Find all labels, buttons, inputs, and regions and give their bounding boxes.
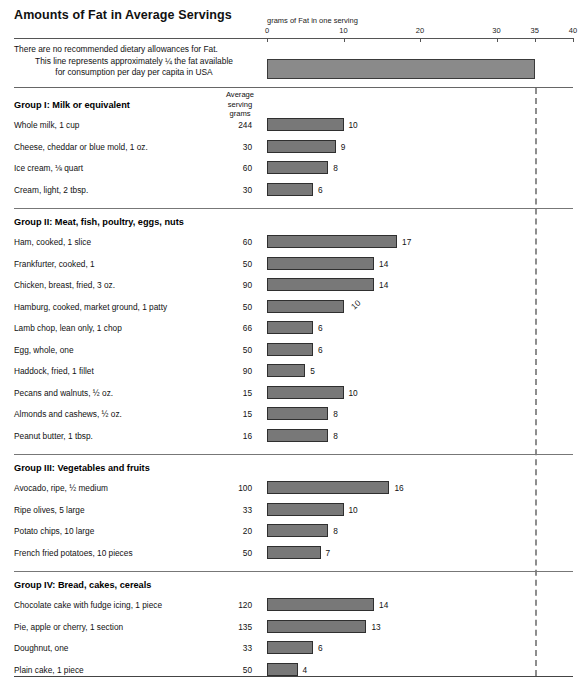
row-value-label: 8 (333, 431, 338, 441)
row-bar (267, 620, 366, 633)
note-separator-rule (14, 87, 573, 88)
row-serving-grams: 15 (190, 409, 252, 419)
row-bar (267, 118, 344, 131)
row-value-label: 13 (371, 622, 380, 632)
row-label: Lamb chop, lean only, 1 chop (14, 323, 122, 333)
row-bar (267, 140, 336, 153)
row-bar (267, 161, 328, 174)
row-bar (267, 235, 397, 248)
serving-grams-column-header: Average serving grams (200, 90, 280, 119)
axis-tick-label: 35 (531, 26, 539, 35)
group-title: Group II: Meat, fish, poultry, eggs, nut… (14, 217, 184, 227)
row-serving-grams: 90 (190, 366, 252, 376)
row-serving-grams: 30 (190, 185, 252, 195)
group-title: Group IV: Bread, cakes, cereals (14, 580, 151, 590)
row-serving-grams: 33 (190, 643, 252, 653)
row-bar (267, 364, 305, 377)
axis-tick-label: 30 (492, 26, 500, 35)
row-label: Cream, light, 2 tbsp. (14, 185, 88, 195)
intro-note-line-2: This line represents approximately ¼ the… (14, 56, 254, 68)
row-label: Pie, apple or cherry, 1 section (14, 622, 123, 632)
reference-dashed-line (535, 88, 537, 676)
row-value-label: 10 (349, 120, 358, 130)
axis-tick-label: 0 (265, 26, 269, 35)
row-label: Whole milk, 1 cup (14, 120, 79, 130)
row-bar (267, 503, 344, 516)
group-separator-rule (14, 571, 573, 572)
row-label: Avocado, ripe, ½ medium (14, 483, 108, 493)
row-value-label: 6 (318, 323, 323, 333)
row-bar (267, 407, 328, 420)
row-value-label: 6 (318, 643, 323, 653)
row-value-label: 5 (310, 366, 315, 376)
row-serving-grams: 50 (190, 548, 252, 558)
row-label: Frankfurter, cooked, 1 (14, 259, 95, 269)
row-value-label: 9 (341, 142, 346, 152)
axis-baseline (14, 38, 573, 39)
row-serving-grams: 50 (190, 665, 252, 675)
row-label: Ham, cooked, 1 slice (14, 237, 91, 247)
row-serving-grams: 20 (190, 526, 252, 536)
row-bar (267, 429, 328, 442)
row-bar (267, 546, 321, 559)
bottom-rule (14, 676, 573, 677)
row-value-label: 7 (326, 548, 331, 558)
axis-tick-mark (267, 38, 268, 42)
row-serving-grams: 60 (190, 163, 252, 173)
row-label: Chocolate cake with fudge icing, 1 piece (14, 600, 162, 610)
row-value-label: 4 (303, 665, 308, 675)
row-value-label: 8 (333, 526, 338, 536)
row-value-label: 6 (318, 345, 323, 355)
row-label: Potato chips, 10 large (14, 526, 94, 536)
row-bar (267, 663, 298, 676)
axis-tick-label: 20 (416, 26, 424, 35)
row-label: Hamburg, cooked, market ground, 1 patty (14, 302, 167, 312)
row-bar (267, 257, 374, 270)
row-serving-grams: 60 (190, 237, 252, 247)
row-label: Plain cake, 1 piece (14, 665, 84, 675)
row-serving-grams: 16 (190, 431, 252, 441)
row-value-label: 10 (349, 388, 358, 398)
row-serving-grams: 66 (190, 323, 252, 333)
group-separator-rule (14, 454, 573, 455)
row-label: Cheese, cheddar or blue mold, 1 oz. (14, 142, 148, 152)
row-serving-grams: 90 (190, 280, 252, 290)
axis-caption: grams of Fat in one serving (267, 16, 358, 25)
column-header-line-2: serving (200, 100, 280, 110)
group-separator-rule (14, 208, 573, 209)
axis-tick-mark (420, 38, 421, 42)
row-value-label: 14 (379, 259, 388, 269)
row-serving-grams: 50 (190, 259, 252, 269)
axis-tick-mark (497, 38, 498, 42)
row-serving-grams: 135 (190, 622, 252, 632)
row-label: Ripe olives, 5 large (14, 505, 85, 515)
row-bar (267, 321, 313, 334)
row-bar (267, 343, 313, 356)
axis-tick-mark (344, 38, 345, 42)
row-serving-grams: 50 (190, 345, 252, 355)
fat-chart-sheet: Amounts of Fat in Average Servings grams… (0, 0, 581, 685)
row-value-label: 10 (349, 505, 358, 515)
group-title: Group I: Milk or equivalent (14, 100, 130, 110)
row-value-label: 16 (394, 483, 403, 493)
row-serving-grams: 120 (190, 600, 252, 610)
row-bar (267, 481, 389, 494)
intro-note: There are no recommended dietary allowan… (14, 44, 254, 79)
row-value-label: 17 (402, 237, 411, 247)
row-label: Pecans and walnuts, ½ oz. (14, 388, 113, 398)
row-label: Almonds and cashews, ½ oz. (14, 409, 122, 419)
group-title: Group III: Vegetables and fruits (14, 463, 150, 473)
axis-tick-label: 10 (339, 26, 347, 35)
row-bar (267, 183, 313, 196)
row-serving-grams: 30 (190, 142, 252, 152)
intro-note-line-1: There are no recommended dietary allowan… (14, 44, 254, 56)
row-value-label: 14 (379, 280, 388, 290)
row-bar (267, 641, 313, 654)
row-value-label: 8 (333, 163, 338, 173)
axis-tick-label: 40 (569, 26, 577, 35)
row-bar (267, 524, 328, 537)
row-bar (267, 386, 344, 399)
axis-tick-mark (535, 38, 536, 42)
row-label: Egg, whole, one (14, 345, 74, 355)
row-serving-grams: 100 (190, 483, 252, 493)
